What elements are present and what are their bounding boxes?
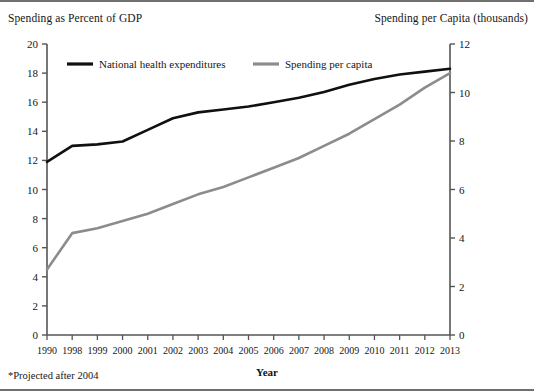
x-axis-tick-label: 2011 (390, 345, 410, 356)
x-axis-tick-label: 2010 (364, 345, 384, 356)
y2-axis-tick-label: 2 (459, 281, 465, 293)
chart-figure: Spending as Percent of GDP Spending per … (0, 0, 534, 391)
x-axis-tick-label: 1998 (62, 345, 82, 356)
y2-axis-tick-label: 0 (459, 329, 465, 341)
y2-axis-tick-label: 10 (459, 87, 471, 99)
x-axis-title: Year (256, 366, 278, 378)
y-axis-tick-label: 10 (27, 184, 39, 196)
y-axis-tick-label: 6 (33, 242, 39, 254)
y-axis-tick-label: 4 (33, 271, 39, 283)
series-line (47, 69, 450, 162)
y-axis-tick-label: 14 (27, 125, 39, 137)
y-axis-tick-label: 16 (27, 96, 39, 108)
right-y-axis: 024681012 (450, 38, 471, 341)
y2-axis-tick-label: 4 (459, 232, 465, 244)
y-axis-tick-label: 20 (27, 38, 39, 50)
data-series-group (47, 69, 450, 270)
y-axis-tick-label: 18 (27, 67, 39, 79)
x-axis-tick-label: 2002 (163, 345, 183, 356)
x-axis-tick-label: 1999 (87, 345, 107, 356)
y2-axis-tick-label: 12 (459, 38, 470, 50)
series-line (47, 73, 450, 269)
x-axis-tick-label: 1990 (37, 345, 57, 356)
x-axis-tick-label: 2005 (239, 345, 259, 356)
x-axis-tick-label: 2009 (339, 345, 359, 356)
x-axis-tick-label: 2001 (138, 345, 158, 356)
y2-axis-tick-label: 8 (459, 135, 465, 147)
x-axis-tick-label: 2006 (264, 345, 284, 356)
legend-label: National health expenditures (99, 58, 225, 70)
x-axis-tick-label: 2003 (188, 345, 208, 356)
y-axis-tick-label: 0 (33, 329, 39, 341)
y-axis-tick-label: 12 (27, 154, 38, 166)
left-y-axis: 02468101214161820 (27, 38, 47, 341)
x-axis-tick-label: 2007 (289, 345, 309, 356)
x-axis-tick-label: 2000 (113, 345, 133, 356)
y2-axis-tick-label: 6 (459, 184, 465, 196)
y-axis-tick-label: 2 (33, 300, 39, 312)
x-axis-tick-label: 2004 (213, 345, 233, 356)
x-axis-tick-label: 2012 (415, 345, 435, 356)
x-axis-tick-label: 2013 (440, 345, 460, 356)
legend-label: Spending per capita (285, 58, 372, 70)
x-axis-tick-label: 2008 (314, 345, 334, 356)
y-axis-tick-label: 8 (33, 213, 39, 225)
chart-legend: National health expendituresSpending per… (67, 58, 372, 70)
x-axis: 1990199819992000200120022003200420052006… (37, 335, 460, 356)
line-chart-plot: 02468101214161820 024681012 199019981999… (0, 2, 534, 391)
footnote: *Projected after 2004 (8, 370, 98, 381)
